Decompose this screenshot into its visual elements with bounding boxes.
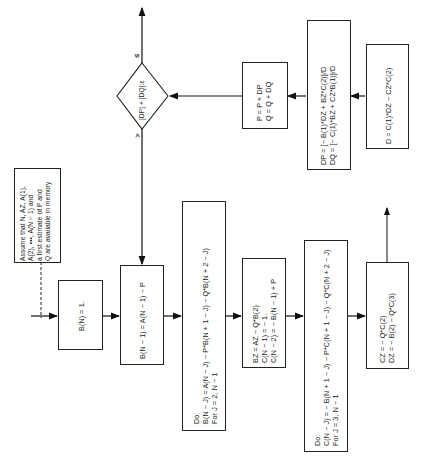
d-text: D = C(1)*DZ − CZ*C(2) — [384, 68, 393, 144]
update-pq-box: P = P + DP Q = Q + DQ — [242, 62, 288, 129]
init-b-text: B(N) = 1. — [77, 301, 86, 331]
init-b-box: B(N) = 1. — [58, 280, 103, 350]
loop-b-text: Do: B(N − J) = A(N − J) − P*B(N + 1 − J)… — [192, 248, 220, 424]
bz-c-text: BZ = AZ − Q*B(2) C(N − 1) = − 1. C(N − 2… — [251, 279, 279, 363]
b-n1-box: B(N − 1) = A(N − 1) − P — [120, 265, 164, 365]
assumption-note: Assume that N, AZ, A(1), A(2), •••, A(N … — [14, 168, 61, 263]
dp-dq-box: DP = [− B(1)*DZ + BZ*C(2)]/D DQ = [− C(1… — [307, 20, 351, 170]
branch-label-iterate: > — [134, 133, 141, 137]
loop-b-box: Do: B(N − J) = A(N − J) − P*B(N + 1 − J)… — [182, 201, 226, 431]
bz-c-box: BZ = AZ − Q*B(2) C(N − 1) = − 1. C(N − 2… — [242, 258, 286, 368]
b-n1-text: B(N − 1) = A(N − 1) − P — [138, 282, 147, 359]
update-pq-text: P = P + DP Q = Q + DQ — [255, 82, 273, 121]
cz-dz-text: CZ = − Q*C(2) DZ = − B(2) − Q*C(3) — [378, 293, 396, 363]
assumption-text: Assume that N, AZ, A(1), A(2), •••, A(N … — [19, 182, 53, 261]
cz-dz-box: CZ = − Q*C(2) DZ = − B(2) − Q*C(3) — [366, 262, 409, 369]
branch-label-converged: ≤ — [133, 54, 140, 58]
d-box: D = C(1)*DZ − CZ*C(2) — [366, 44, 409, 149]
dp-dq-text: DP = [− B(1)*DZ + BZ*C(2)]/D DQ = [− C(1… — [319, 66, 337, 165]
loop-c-text: Do: C(N − J) = − B(N + 1 − J) − P*C(N + … — [313, 249, 341, 446]
decision-text: |DP| + |DQ|:ε — [138, 81, 146, 121]
loop-c-box: Do: C(N − J) = − B(N + 1 − J) − P*C(N + … — [304, 240, 348, 452]
